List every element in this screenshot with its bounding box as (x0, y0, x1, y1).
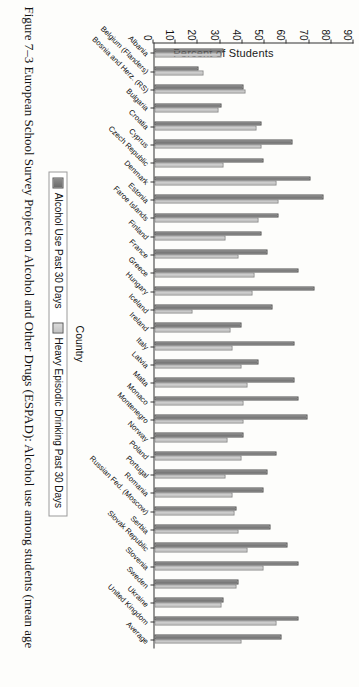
bar-group (154, 43, 353, 61)
bar-group (154, 373, 353, 391)
x-label-cell: Montenegro (87, 409, 151, 427)
y-tick-label: 10 (164, 18, 175, 40)
bar-series1 (154, 432, 243, 437)
x-label-cell: Czech Republic (87, 152, 151, 170)
x-label-cell: France (87, 244, 151, 262)
bar-group (154, 556, 353, 574)
bar-series1 (154, 506, 236, 511)
bar-series1 (154, 597, 223, 602)
bar-group (154, 281, 353, 299)
bar-series2 (154, 125, 256, 130)
bar-series1 (154, 561, 298, 566)
bar-group (154, 116, 353, 134)
bar-group (154, 465, 353, 483)
y-tick-mark (241, 39, 242, 43)
bar-series1 (154, 487, 263, 492)
bar-series1 (154, 139, 292, 144)
x-label-cell: Finland (87, 226, 151, 244)
x-label-cell: Norway (87, 428, 151, 446)
bar-group (154, 245, 353, 263)
x-label-cell: Malta (87, 372, 151, 390)
y-tick-mark (219, 39, 220, 43)
chart-legend: Alcohol Use Past 30 Days Heavy Episodic … (48, 171, 67, 515)
bar-series1 (154, 616, 298, 621)
x-label-cell: United Kingdom (87, 611, 151, 629)
bar-group (154, 263, 353, 281)
bar-group (154, 171, 353, 189)
bar-series1 (154, 634, 281, 639)
bar-group (154, 611, 353, 629)
bar-group (154, 446, 353, 464)
y-tick-label: 40 (230, 18, 241, 40)
bar-series2 (154, 52, 221, 57)
bar-series1 (154, 121, 261, 126)
bar-series2 (154, 639, 241, 644)
bar-series1 (154, 322, 241, 327)
y-tick-mark (196, 39, 197, 43)
bar-series1 (154, 48, 223, 53)
bar-series2 (154, 437, 227, 442)
bar-series2 (154, 217, 258, 222)
y-tick-label: 70 (297, 18, 308, 40)
y-tick-mark (285, 39, 286, 43)
x-label-cell: Bosnia and Herz. (RS) (87, 79, 151, 97)
bar-series1 (154, 176, 310, 181)
x-label-cell: Ireland (87, 317, 151, 335)
bar-series2 (154, 254, 238, 259)
bar-series1 (154, 194, 323, 199)
bar-series2 (154, 199, 278, 204)
legend-item-heavy-episodic: Heavy Episodic Drinking Past 30 Days (52, 322, 63, 508)
y-tick-mark (308, 39, 309, 43)
bar-group (154, 391, 353, 409)
x-label-cell: Iceland (87, 299, 151, 317)
bar-series1 (154, 103, 221, 108)
bar-series2 (154, 565, 263, 570)
legend-swatch-icon-series1 (52, 177, 63, 188)
y-tick-mark (152, 39, 153, 43)
bar-group (154, 428, 353, 446)
bar-group (154, 190, 353, 208)
bar-series1 (154, 414, 307, 419)
caption-holder: Figure 7–3 European School Survey Projec… (20, 0, 36, 687)
bar-series1 (154, 396, 298, 401)
bar-series2 (154, 602, 221, 607)
bar-series2 (154, 309, 192, 314)
bar-series2 (154, 89, 245, 94)
bar-group (154, 208, 353, 226)
figure-caption: Figure 7–3 European School Survey Projec… (20, 6, 36, 681)
bar-series-container (154, 43, 353, 648)
figure-rotator: Percent of Students 0102030405060708090 … (0, 0, 359, 687)
bar-series1 (154, 377, 294, 382)
bar-series1 (154, 359, 258, 364)
bar-series2 (154, 327, 230, 332)
bar-series2 (154, 474, 225, 479)
bar-series2 (154, 107, 218, 112)
bar-series1 (154, 524, 270, 529)
bar-group (154, 520, 353, 538)
bar-series2 (154, 290, 252, 295)
bar-series1 (154, 542, 287, 547)
bar-series1 (154, 451, 276, 456)
bar-series2 (154, 529, 238, 534)
bar-series2 (154, 235, 225, 240)
y-tick-mark (174, 39, 175, 43)
bar-series2 (154, 510, 234, 515)
bar-series2 (154, 272, 254, 277)
bar-group (154, 630, 353, 648)
y-tick-mark (263, 39, 264, 43)
bar-group (154, 98, 353, 116)
y-tick-label: 20 (186, 18, 197, 40)
legend-label-series1: Alcohol Use Past 30 Days (52, 192, 63, 308)
bar-series2 (154, 364, 241, 369)
bar-group (154, 300, 353, 318)
x-axis-category-labels: AlbaniaBelgium (Flanders)Bosnia and Herz… (87, 42, 151, 648)
bar-series1 (154, 304, 272, 309)
x-label-cell: Average (87, 630, 151, 648)
bar-series1 (154, 158, 263, 163)
bar-series2 (154, 345, 232, 350)
figure: Percent of Students 0102030405060708090 … (0, 0, 359, 687)
bar-series2 (154, 419, 243, 424)
bar-series2 (154, 180, 276, 185)
bar-series2 (154, 492, 232, 497)
y-tick-label: 30 (208, 18, 219, 40)
